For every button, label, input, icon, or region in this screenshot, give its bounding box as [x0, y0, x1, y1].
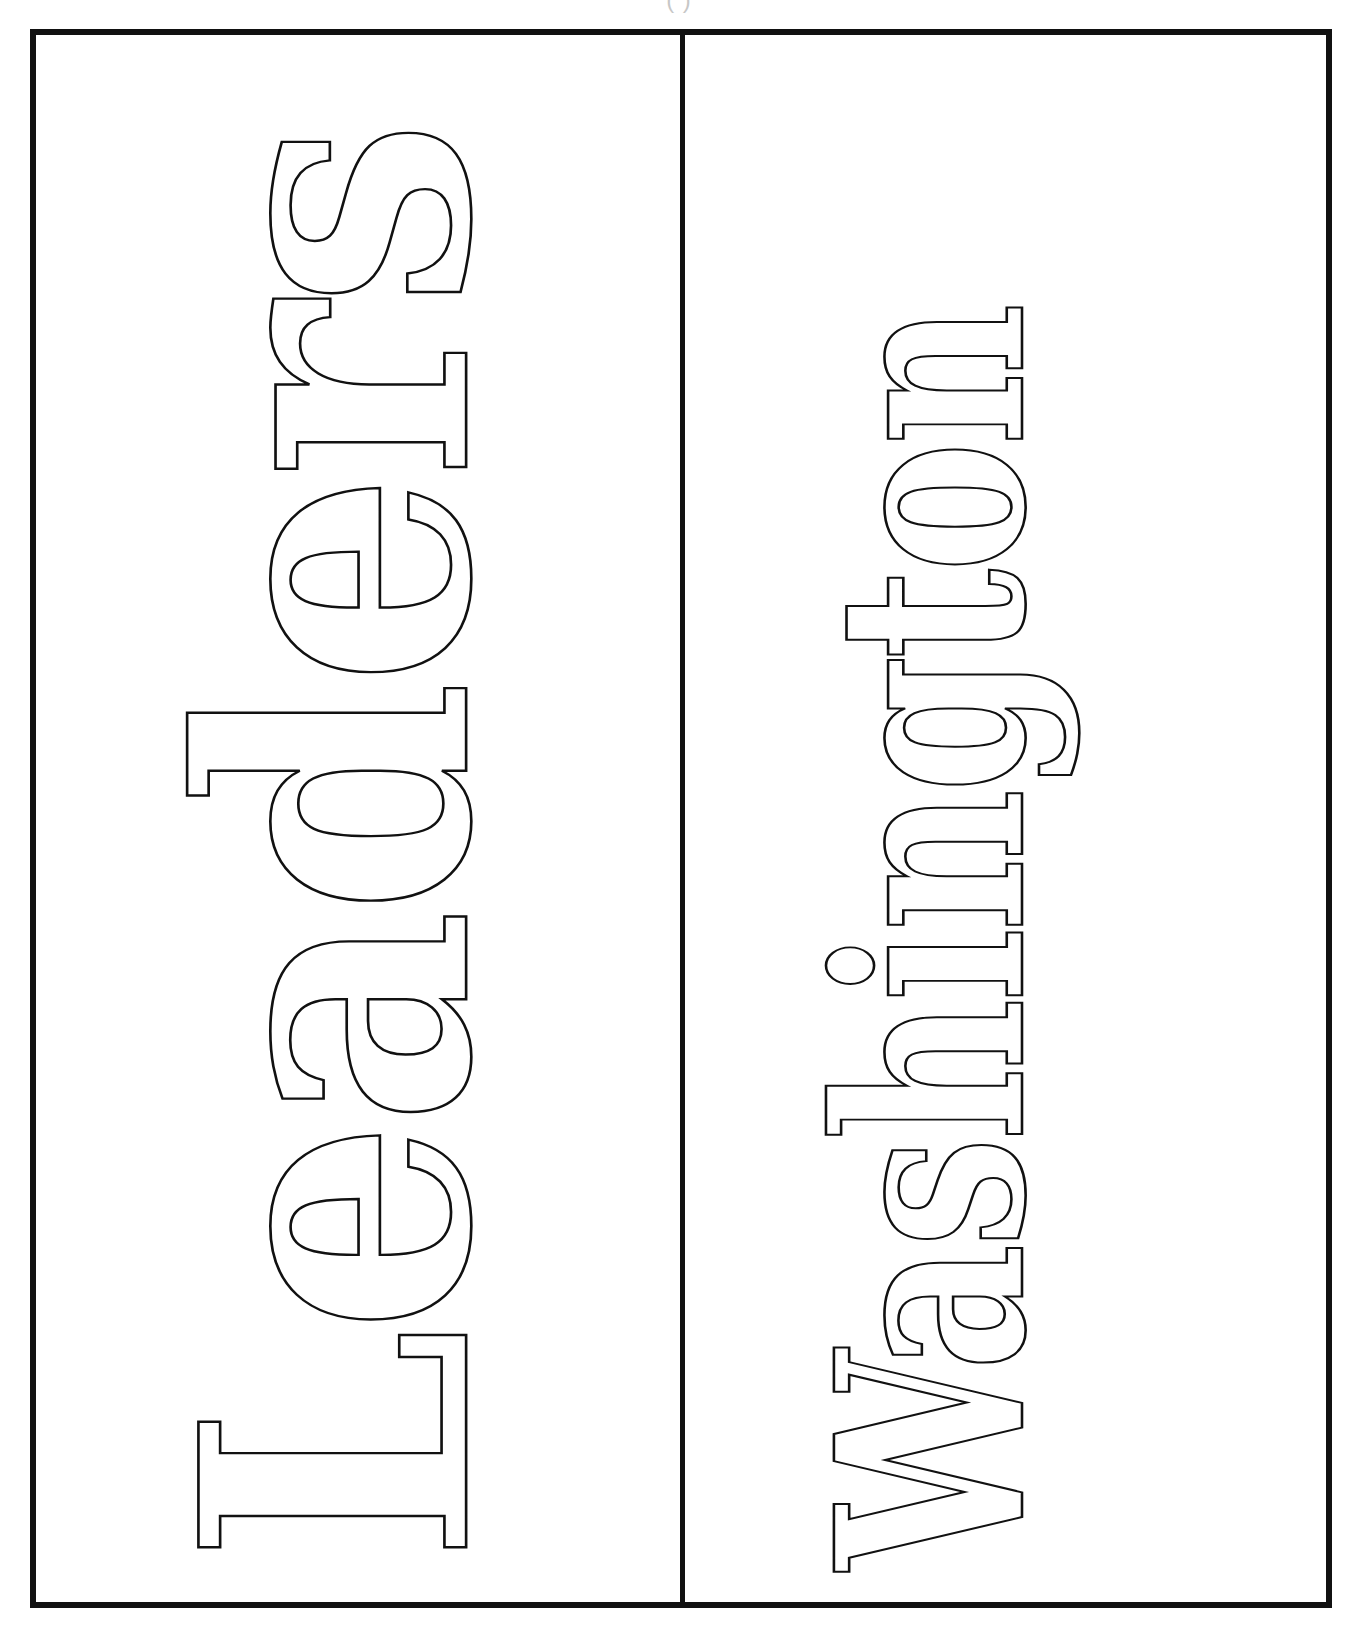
- right-panel: Washington: [685, 35, 1326, 1602]
- outlined-word-leaders: Leaders: [154, 125, 521, 1563]
- outlined-word-washington: Washington: [803, 307, 1061, 1570]
- cut-off-header-text: ( ): [0, 0, 1358, 14]
- worksheet-frame: Leaders Washington: [30, 29, 1332, 1608]
- left-panel: Leaders: [36, 35, 685, 1602]
